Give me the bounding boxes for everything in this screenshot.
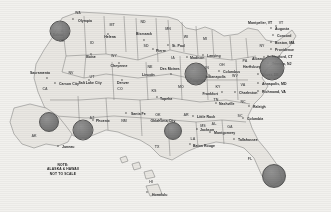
state-abbr-mo: MO xyxy=(178,86,184,90)
capital-label-charleston: Charleston xyxy=(239,92,257,96)
metro-marker-miami-metro[interactable] xyxy=(262,164,286,188)
state-abbr-nv: NV xyxy=(68,72,73,76)
capital-label-columbus: Columbus xyxy=(223,71,240,75)
state-abbr-mn: MN xyxy=(165,28,171,32)
metro-marker-portland-metro[interactable] xyxy=(50,21,71,42)
capital-label-frankfort: Frankfort xyxy=(202,93,218,97)
state-abbr-wv: WV xyxy=(232,75,238,79)
state-abbr-mt: MT xyxy=(109,24,114,28)
capital-label-tallahassee: Tallahassee xyxy=(238,139,258,143)
state-abbr-ut: UT xyxy=(90,76,95,80)
capital-label-jackson: Jackson xyxy=(200,129,214,133)
state-abbr-ar: AR xyxy=(183,114,188,118)
state-abbr-hi: HI xyxy=(149,181,153,185)
capital-label-montgomery: Montgomery xyxy=(214,132,235,136)
capital-label-boston-ma: Boston, MA xyxy=(275,42,295,46)
metro-marker-dallas-metro[interactable] xyxy=(164,122,182,140)
capital-label-des-moines: Des Moines xyxy=(160,68,180,72)
state-abbr-ok: OK xyxy=(155,114,160,118)
state-abbr-vt: VT xyxy=(279,22,284,26)
state-abbr-mi: MI xyxy=(203,38,207,42)
capital-label-denver: Denver xyxy=(117,82,129,86)
metro-marker-los-angeles-metro[interactable] xyxy=(39,112,59,132)
capital-label-montpelier-vt: Montpelier, VT xyxy=(248,22,272,26)
capital-label-concord: Concord xyxy=(277,35,292,39)
capital-label-harrisburg: Harrisburg xyxy=(243,66,261,70)
state-abbr-ia: IA xyxy=(171,57,175,61)
state-abbr-oh: OH xyxy=(219,64,224,68)
capital-label-honolulu: Honolulu xyxy=(152,194,167,198)
state-abbr-wi: WI xyxy=(184,36,188,40)
state-abbr-ak: AK xyxy=(31,135,36,139)
capital-label-indianapolis: Indianapolis xyxy=(205,76,226,80)
capital-label-baton-rouge: Baton Rouge xyxy=(193,145,215,149)
metro-marker-new-york-metro[interactable] xyxy=(260,56,285,81)
capital-label-annapolis-md: Annapolis, MD xyxy=(262,83,287,87)
capital-label-madison: Madison xyxy=(190,57,204,61)
state-abbr-id: ID xyxy=(90,42,94,46)
capital-label-juneau: Juneau xyxy=(62,146,74,150)
state-abbr-fl: FL xyxy=(248,158,252,162)
state-abbr-ne: NE xyxy=(147,66,152,70)
state-abbr-nd: ND xyxy=(140,21,145,25)
capital-label-santa-fe: Santa Fe xyxy=(131,113,146,117)
capital-label-phoenix: Phoenix xyxy=(96,120,110,124)
capital-label-nashville: Nashville xyxy=(219,103,235,107)
capital-label-columbia: Columbia xyxy=(247,118,263,122)
state-abbr-sc: SC xyxy=(237,115,242,119)
state-abbr-ky: KY xyxy=(215,86,220,90)
capital-label-little-rock: Little Rock xyxy=(197,116,215,120)
metro-marker-phoenix-metro[interactable] xyxy=(73,120,94,141)
capital-label-bismarck: Bismarck xyxy=(136,33,152,37)
capital-label-pierre: Pierre xyxy=(156,50,166,54)
capital-label-topeka: Topeka xyxy=(160,98,172,102)
state-abbr-ks: KS xyxy=(151,90,156,94)
state-abbr-al: AL xyxy=(212,123,217,127)
state-abbr-pa: PA xyxy=(243,60,248,64)
state-abbr-nc: NC xyxy=(240,101,245,105)
capital-label-olympia: Olympia xyxy=(78,20,92,24)
capital-label-raleigh: Raleigh xyxy=(253,106,266,110)
capital-label-boise: Boise xyxy=(86,56,96,60)
capital-label-providence: Providence xyxy=(275,49,294,53)
state-abbr-va: VA xyxy=(241,84,246,88)
scale-note: NOTE: ALASKA & HAWAII NOT TO SCALE xyxy=(47,163,79,176)
capital-label-carson-city: Carson City xyxy=(59,83,79,87)
state-abbr-nm: NM xyxy=(121,120,127,124)
state-abbr-ga: GA xyxy=(227,126,232,130)
state-abbr-ca: CA xyxy=(42,88,47,92)
capital-label-st-paul: St. Paul xyxy=(172,45,185,49)
capital-label-lincoln: Lincoln xyxy=(142,74,155,78)
capital-label-salt-lake-city: Salt Lake City xyxy=(78,82,101,86)
state-abbr-wy: WY xyxy=(111,55,117,59)
state-abbr-ny: NY xyxy=(259,45,264,49)
metro-marker-chicago-metro[interactable] xyxy=(185,63,208,86)
capital-label-sacramento: Sacramento xyxy=(30,72,50,76)
capital-label-cheyenne: Cheyenne xyxy=(111,65,128,69)
state-abbr-co: CO xyxy=(117,88,122,92)
state-abbr-tx: TX xyxy=(155,146,160,150)
state-abbr-sd: SD xyxy=(143,45,148,49)
capital-label-lansing: Lansing xyxy=(207,55,221,59)
state-abbr-az: AZ xyxy=(90,117,95,121)
state-abbr-la: LA xyxy=(191,138,196,142)
capital-label-augusta: Augusta xyxy=(275,28,289,32)
capital-label-helena: Helena xyxy=(104,36,116,40)
us-map-figure: WAORCAIDNVUTAZMTWYCONMNDSDNEKSOKTXMNIAMO… xyxy=(0,0,331,212)
state-abbr-wa: WA xyxy=(75,12,81,16)
capital-label-richmond-va: Richmond, VA xyxy=(262,91,286,95)
scale-note-line-3: NOT TO SCALE xyxy=(47,172,79,176)
